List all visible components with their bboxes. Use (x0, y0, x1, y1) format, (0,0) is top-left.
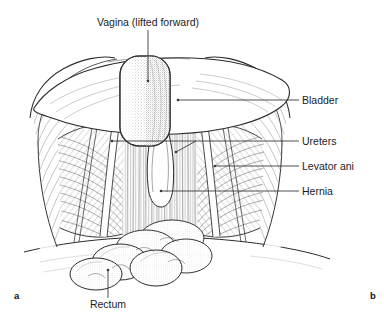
label-ureters: Ureters (302, 135, 336, 147)
label-rectum: Rectum (90, 298, 126, 310)
label-vagina: Vagina (lifted forward) (97, 16, 199, 28)
panel-marker-a: a (14, 290, 20, 301)
label-hernia: Hernia (302, 185, 333, 197)
panel-marker-b: b (370, 290, 376, 301)
label-levator-ani: Levator ani (302, 160, 354, 172)
anatomical-figure: Vagina (lifted forward) Bladder Ureters … (0, 0, 384, 320)
label-bladder: Bladder (302, 94, 339, 106)
vagina (120, 56, 170, 146)
